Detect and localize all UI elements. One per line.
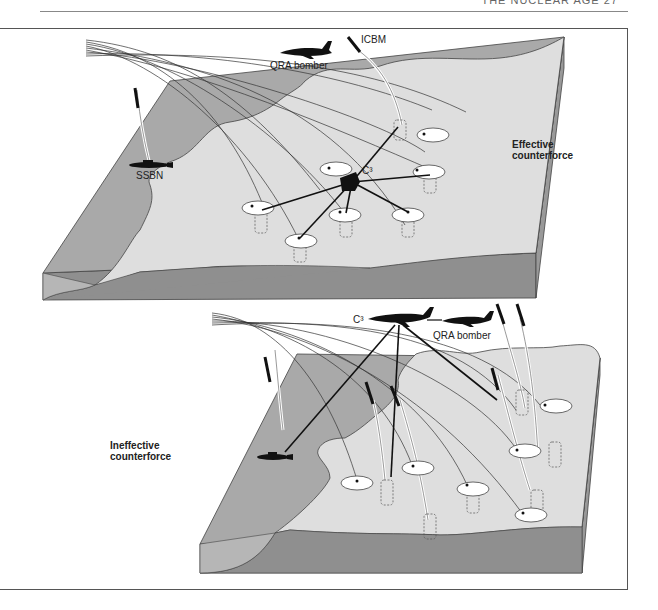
qra-bomber-label: QRA bomber (270, 60, 328, 71)
icbm-missile-icon (348, 37, 360, 52)
ssbn-label: SSBN (136, 170, 163, 181)
c3-label: C³ (353, 314, 364, 325)
panel-title-line1: Ineffective (110, 440, 171, 451)
c3-label: C³ (362, 165, 373, 176)
qra-bomber-icon (442, 311, 494, 327)
qra-bomber-label: QRA bomber (433, 330, 491, 341)
icbm-label: ICBM (361, 34, 386, 45)
counterforce-diagram (0, 0, 658, 610)
panel-title-line2: counterforce (110, 451, 171, 462)
qra-bomber-icon (280, 41, 332, 59)
panel-title-effective: Effective counterforce (512, 139, 573, 161)
panel-title-line2: counterforce (512, 150, 573, 161)
ineffective-counterforce-panel (200, 304, 600, 573)
effective-counterforce-panel (43, 37, 564, 300)
panel-title-ineffective: Ineffective counterforce (110, 440, 171, 462)
c3-aircraft-icon (368, 307, 434, 327)
panel-title-line1: Effective (512, 139, 573, 150)
